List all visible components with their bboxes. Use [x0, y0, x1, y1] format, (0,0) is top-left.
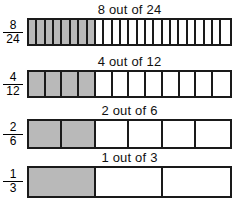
bar-cell-empty [188, 20, 196, 44]
bar-cell-empty [96, 20, 104, 44]
bar-cell-empty [129, 72, 146, 96]
bar-cell-empty [205, 20, 213, 44]
fraction-numerator: 1 [2, 169, 24, 181]
bar-cell-empty [179, 20, 187, 44]
fraction-bar [27, 18, 232, 46]
bar-cell-empty [154, 20, 162, 44]
fraction-denominator: 24 [2, 33, 24, 45]
row-title: 8 out of 24 [27, 3, 232, 17]
fraction-label: 824 [2, 20, 24, 45]
fraction-label: 412 [2, 72, 24, 97]
bar-cell-shaded [62, 72, 79, 96]
bar-cell-empty [196, 121, 229, 147]
bar-cell-shaded [37, 20, 45, 44]
fraction-label: 13 [2, 169, 24, 194]
bar-cell-empty [113, 20, 121, 44]
bar-cell-shaded [29, 168, 96, 196]
bar-cell-empty [171, 20, 179, 44]
row-title: 4 out of 12 [27, 55, 232, 69]
fraction-label: 26 [2, 122, 24, 147]
fraction-numerator: 4 [2, 72, 24, 84]
bar-cell-shaded [54, 20, 62, 44]
fraction-bar [27, 70, 232, 98]
fraction-bar [27, 119, 232, 149]
bar-cell-empty [213, 72, 230, 96]
row-title: 2 out of 6 [27, 104, 232, 118]
bar-cell-shaded [46, 20, 54, 44]
bar-cell-empty [196, 72, 213, 96]
bar-cell-empty [96, 72, 113, 96]
bar-cell-empty [96, 121, 129, 147]
bar-cell-empty [104, 20, 112, 44]
bar-cell-shaded [62, 121, 95, 147]
bar-cell-empty [96, 168, 163, 196]
bar-cell-shaded [29, 72, 46, 96]
bar-cell-empty [129, 121, 162, 147]
bar-cell-shaded [88, 20, 96, 44]
bar-cell-shaded [29, 121, 62, 147]
fraction-denominator: 3 [2, 182, 24, 194]
bar-cell-empty [180, 72, 197, 96]
bar-cell-empty [129, 20, 137, 44]
row-title: 1 out of 3 [27, 151, 232, 165]
bar-cell-empty [146, 20, 154, 44]
fraction-numerator: 8 [2, 20, 24, 32]
bar-cell-shaded [46, 72, 63, 96]
bar-cell-empty [163, 121, 196, 147]
bar-cell-shaded [62, 20, 70, 44]
bar-cell-empty [163, 168, 230, 196]
fraction-diagram: 8 out of 248244 out of 124122 out of 626… [0, 0, 249, 205]
bar-cell-empty [163, 72, 180, 96]
bar-cell-empty [196, 20, 204, 44]
bar-cell-shaded [29, 20, 37, 44]
bar-cell-empty [146, 72, 163, 96]
bar-cell-empty [213, 20, 221, 44]
bar-cell-empty [221, 20, 229, 44]
fraction-denominator: 6 [2, 135, 24, 147]
bar-cell-shaded [79, 72, 96, 96]
bar-cell-empty [163, 20, 171, 44]
fraction-bar [27, 166, 232, 198]
fraction-denominator: 12 [2, 85, 24, 97]
bar-cell-shaded [79, 20, 87, 44]
bar-cell-empty [113, 72, 130, 96]
bar-cell-empty [138, 20, 146, 44]
bar-cell-shaded [71, 20, 79, 44]
fraction-numerator: 2 [2, 122, 24, 134]
bar-cell-empty [121, 20, 129, 44]
